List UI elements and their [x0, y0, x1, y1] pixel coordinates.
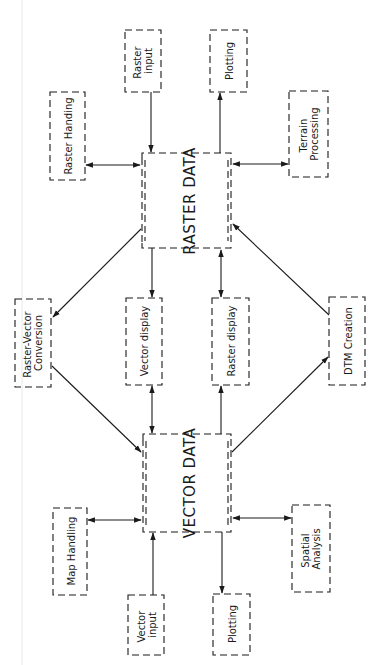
plotting-bottom-label: Plotting	[227, 605, 238, 643]
vector-display-label: Vector display	[139, 306, 150, 377]
plotting-bottom-node: Plotting	[213, 594, 250, 655]
spatial-analysis-node: Spatial Analysis	[292, 505, 330, 592]
edge-vector-data-dtm-creation	[232, 357, 328, 452]
terrain-processing-label-line2: Processing	[309, 107, 320, 160]
svg-text:Raster input: Raster input	[132, 43, 154, 78]
raster-vector-conversion-label-line2: Conversion	[33, 315, 44, 371]
raster-input-node: Raster input	[125, 30, 161, 92]
raster-data-node: RASTER DATA	[142, 147, 231, 255]
raster-display-label: Raster display	[226, 305, 237, 376]
svg-text:Raster-Vector Conversion: Raster-Vector Conversion	[22, 308, 44, 378]
svg-text:Terrain Processing: Terrain Processing	[298, 107, 320, 160]
svg-text:Spatial Analysis: Spatial Analysis	[300, 528, 322, 569]
spatial-analysis-label-line2: Analysis	[311, 528, 322, 569]
raster-data-label: RASTER DATA	[181, 147, 199, 255]
raster-handling-label: Raster Handing	[63, 97, 74, 174]
raster-vector-conversion-node: Raster-Vector Conversion	[15, 299, 51, 387]
vector-input-label-line2: input	[147, 612, 158, 638]
vector-data-node: VECTOR DATA	[143, 428, 231, 539]
map-handling-label: Map Handling	[66, 517, 77, 586]
svg-text:Vector input: Vector input	[136, 607, 158, 642]
spatial-analysis-label-line1: Spatial	[300, 533, 311, 567]
vector-input-node: Vector input	[128, 595, 164, 655]
gis-data-flow-diagram: RASTER DATA VECTOR DATA Raster Handing R…	[0, 0, 380, 665]
dtm-creation-label: DTM Creation	[343, 307, 354, 375]
edge-rv-conversion-vector-data	[52, 366, 141, 452]
raster-handling-node: Raster Handing	[50, 92, 85, 180]
raster-vector-conversion-label-line1: Raster-Vector	[22, 310, 33, 377]
dtm-creation-node: DTM Creation	[329, 297, 365, 385]
plotting-top-label: Plotting	[224, 42, 235, 80]
map-handling-node: Map Handling	[53, 508, 87, 595]
plotting-top-node: Plotting	[210, 30, 247, 92]
terrain-processing-node: Terrain Processing	[289, 91, 328, 177]
vector-input-label-line1: Vector	[136, 610, 147, 643]
edge-raster-data-rv-conversion	[53, 229, 141, 317]
edge-dtm-creation-raster-data	[233, 224, 329, 315]
raster-input-label-line1: Raster	[132, 46, 143, 79]
vector-data-label: VECTOR DATA	[181, 428, 199, 539]
raster-input-label-line2: input	[143, 48, 154, 74]
terrain-processing-label-line1: Terrain	[298, 119, 309, 154]
raster-display-node: Raster display	[212, 298, 249, 385]
vector-display-node: Vector display	[126, 298, 162, 385]
